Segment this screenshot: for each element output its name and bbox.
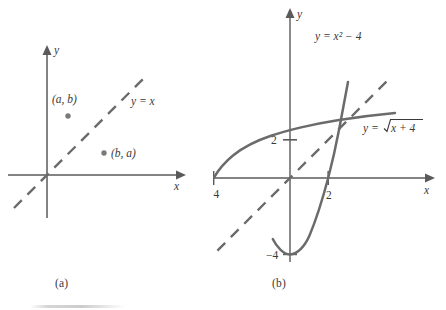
svg-text:y = x² − 4: y = x² − 4: [314, 30, 362, 43]
panel-b-y-axis-label: y: [296, 8, 303, 21]
page-edge-artifact: [30, 305, 125, 308]
panel-a-point-ab-dot: [65, 113, 70, 118]
panel-a-x-axis: [8, 171, 186, 180]
panel-b-x-axis: [213, 174, 435, 183]
panel-b-parabola-curve: [273, 82, 348, 254]
panel-a-identity-line: [14, 77, 145, 208]
panel-b-identity-line: [217, 77, 391, 251]
panel-a-plot: y x y = x (a, b) (b, a): [0, 0, 213, 270]
panel-b-parabola-label: y = x² − 4: [314, 30, 362, 43]
panel-b-tick-label-y-neg4: −4: [266, 249, 278, 261]
panel-a-y-axis-label: y: [53, 44, 60, 57]
panel-b: −4 2 2 −4 y x y = x² − 4 y = x + 4: [213, 0, 446, 310]
panel-b-sqrt-label: y = x + 4: [362, 120, 423, 136]
panel-a-x-axis-label: x: [173, 180, 180, 192]
panel-a-point-ab: (a, b): [52, 93, 77, 119]
panel-a-point-ba: (b, a): [101, 147, 136, 160]
panel-a-point-ba-label: (b, a): [111, 147, 136, 160]
panel-a-point-ab-label: (a, b): [52, 93, 77, 106]
sqrt-label-prefix: y =: [362, 122, 379, 135]
panel-b-tick-label-x-neg4: −4: [213, 188, 219, 200]
panel-a-point-ba-dot: [101, 150, 106, 155]
figure-container: y x y = x (a, b) (b, a): [0, 0, 446, 310]
sqrt-radicand-text: x + 4: [390, 122, 416, 134]
caption-panel-a: (a): [55, 277, 68, 289]
panel-b-x-axis-label: x: [423, 184, 430, 196]
panel-a: y x y = x (a, b) (b, a): [0, 0, 213, 310]
panel-a-y-axis: [43, 45, 52, 218]
panel-b-y-axis: [286, 8, 295, 262]
panel-a-line-label: y = x: [130, 95, 156, 108]
panel-b-plot: −4 2 2 −4 y x y = x² − 4 y = x + 4: [213, 0, 446, 275]
panel-b-tick-label-y-2: 2: [271, 134, 277, 146]
caption-panel-b: (b): [272, 277, 286, 289]
parabola-label-text: y = x² − 4: [314, 30, 362, 43]
panel-b-tick-label-x-2: 2: [326, 189, 332, 201]
